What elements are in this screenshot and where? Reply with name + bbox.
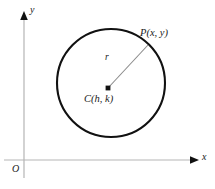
radius-segment: [108, 45, 148, 88]
y-axis-label: y: [30, 5, 34, 15]
x-axis-label: x: [202, 152, 206, 162]
radius-label: r: [105, 53, 109, 63]
center-point-marker: [106, 86, 111, 91]
circle-diagram: y x O P(x, y) C(h, k) r: [0, 0, 215, 189]
circle-outline: [57, 29, 165, 137]
center-c-label: C(h, k): [84, 94, 113, 105]
origin-label: O: [12, 164, 19, 174]
point-p-label: P(x, y): [140, 28, 168, 39]
x-axis-arrow-icon: [190, 156, 199, 164]
y-axis-arrow-icon: [20, 11, 28, 20]
